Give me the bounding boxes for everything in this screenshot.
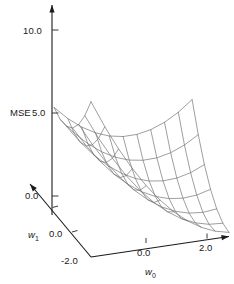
y-axis-title: w1 [28, 229, 39, 242]
mesh-line-constant-w1 [73, 128, 211, 199]
z-tick-label-10: 10.0 [23, 25, 42, 36]
z-tick-label-0: 0.0 [25, 190, 39, 201]
x-axis-title-text: w [145, 266, 152, 277]
y-axis-title-text: w [28, 229, 35, 240]
mesh-line-constant-w0 [137, 134, 174, 211]
z-axis-title: MSE [10, 107, 31, 118]
mesh-line-constant-w0 [54, 102, 91, 128]
x-axis-title: w0 [145, 266, 156, 279]
y-tick-label-neg2: -2.0 [61, 255, 78, 266]
mesh-line-constant-w1 [60, 120, 198, 161]
wireframe-mesh [54, 100, 229, 233]
mesh-line-constant-w0 [109, 136, 146, 190]
y-axis-tick [53, 206, 59, 208]
mesh-line-constant-w0 [151, 130, 188, 221]
mesh-line-constant-w0 [82, 127, 119, 162]
mesh-line-constant-w1 [91, 102, 229, 233]
mesh-line-constant-w0 [178, 112, 215, 231]
y-tick-label-0: 0.0 [49, 228, 63, 239]
y-axis-line [30, 184, 91, 257]
x-tick-label-0: 0.0 [137, 247, 151, 258]
y-axis-tick [72, 231, 78, 233]
z-tick-label-5: 5.0 [32, 107, 46, 118]
mesh-line-constant-w1 [79, 124, 217, 213]
mesh-line-constant-w1 [85, 116, 223, 225]
x-axis-arrow-icon [221, 235, 229, 240]
x-axis-title-subscript: 0 [152, 272, 156, 279]
y-axis-title-subscript: 1 [35, 235, 39, 242]
z-axis-arrow-icon [49, 5, 54, 13]
x-tick-label-2: 2.0 [199, 242, 213, 253]
mse-surface-plot: MSE 10.0 5.0 0.0 0.0 -2.0 0.0 2.0 w1 w0 [0, 0, 234, 284]
axes-group [30, 5, 229, 257]
